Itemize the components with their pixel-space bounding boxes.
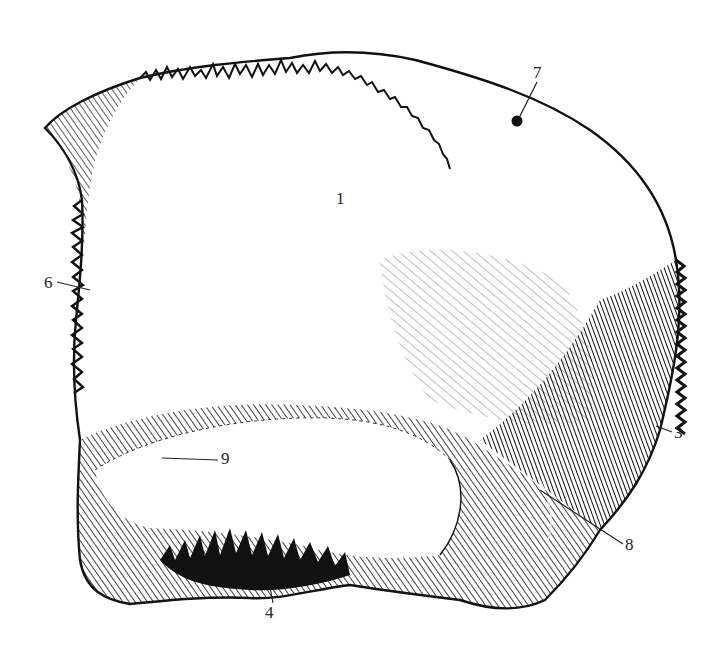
bone-illustration bbox=[0, 0, 723, 671]
label-3: 3 bbox=[674, 424, 683, 441]
label-9: 9 bbox=[221, 450, 230, 467]
label-8: 8 bbox=[625, 536, 634, 553]
label-1: 1 bbox=[336, 190, 345, 207]
label-4: 4 bbox=[265, 604, 274, 621]
label-6: 6 bbox=[44, 274, 53, 291]
label-7: 7 bbox=[533, 64, 542, 81]
bone-body bbox=[45, 52, 685, 608]
